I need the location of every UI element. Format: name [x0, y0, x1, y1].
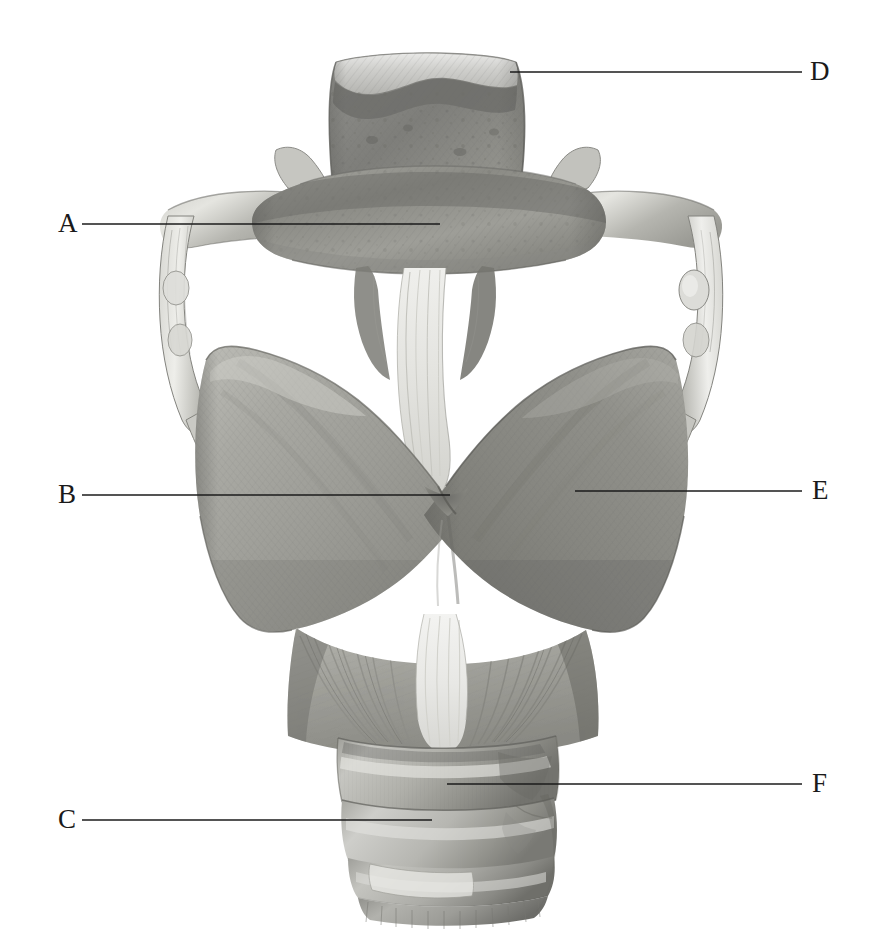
label-c: C: [58, 806, 76, 833]
cricothyroid-region: [280, 614, 610, 770]
hyoid-bone-group: [160, 147, 722, 285]
label-d: D: [810, 58, 830, 85]
larynx-illustration: [0, 0, 875, 929]
label-f: F: [812, 770, 827, 797]
label-a: A: [58, 210, 78, 237]
label-b: B: [58, 481, 76, 508]
label-e: E: [812, 477, 829, 504]
cricoid-and-trachea: [330, 730, 570, 929]
anatomy-figure: A B C D E F: [0, 0, 875, 929]
